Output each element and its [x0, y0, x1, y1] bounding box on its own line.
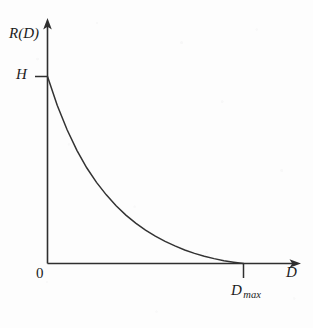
- y-axis-label: R(D): [9, 26, 39, 41]
- h-value-label: H: [16, 67, 27, 82]
- plot-canvas: [0, 0, 313, 328]
- origin-label: 0: [36, 266, 44, 281]
- rate-distortion-figure: R(D) H 0 D Dmax: [0, 0, 313, 328]
- dmax-label: Dmax: [231, 283, 261, 301]
- dmax-subscript-text: max: [243, 289, 261, 300]
- rate-distortion-curve: [48, 77, 244, 264]
- dmax-base-text: D: [231, 282, 242, 298]
- x-axis-label: D: [286, 265, 297, 280]
